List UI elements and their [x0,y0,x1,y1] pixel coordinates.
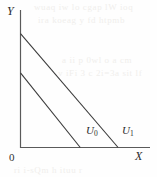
curve-label-u1: U1 [122,125,134,136]
curve-label-u1-subscript: 1 [130,129,134,138]
curve-label-u0: U0 [86,125,98,136]
curve-label-u0-main: U [86,124,94,136]
curve-label-u0-subscript: 0 [94,129,98,138]
origin-label: 0 [9,152,15,163]
curve-label-u1-main: U [122,124,130,136]
economics-budget-line-figure: wuaq iw lo cgap lW ioq ira koeag y fd ht… [0,0,157,177]
y-axis-label: Y [7,5,14,17]
plot-area [0,0,157,177]
x-axis-label: X [135,150,142,162]
budget-line-u0 [21,73,81,148]
